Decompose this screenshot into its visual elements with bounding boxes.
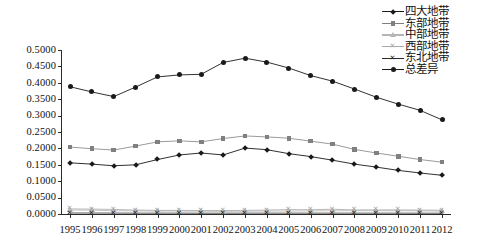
data-point: ✕ <box>395 210 401 217</box>
data-point <box>374 95 379 100</box>
data-point <box>199 72 204 77</box>
data-point <box>177 139 182 144</box>
data-point <box>396 102 401 107</box>
data-point: ✕ <box>242 210 248 217</box>
y-axis-tick-text: 0.0000 <box>27 208 56 219</box>
data-point <box>286 66 291 71</box>
legend-point-icon: ✕ <box>390 55 396 62</box>
legend-marker-icon <box>382 29 404 40</box>
y-axis-tick-text: 0.0500 <box>27 192 56 203</box>
data-point <box>352 147 357 152</box>
data-point <box>155 140 160 145</box>
legend-marker-icon <box>382 64 404 75</box>
legend-point-icon <box>391 67 396 72</box>
data-point: ✕ <box>373 210 379 217</box>
legend-label: 总差异 <box>405 64 438 76</box>
data-point: ✕ <box>417 210 423 217</box>
data-point: ✕ <box>110 210 116 217</box>
data-point <box>133 85 138 90</box>
legend-point-icon <box>390 9 396 15</box>
data-point <box>396 154 401 159</box>
data-point: ✕ <box>176 210 182 217</box>
legend-point-icon <box>391 21 396 26</box>
data-point <box>68 145 73 150</box>
data-point <box>133 144 138 149</box>
data-point: ✕ <box>132 210 138 217</box>
data-point <box>287 136 292 141</box>
data-point <box>199 140 204 145</box>
legend-marker-icon <box>382 18 404 29</box>
legend-item[interactable]: 总差异 <box>382 64 486 76</box>
y-axis-tick-text: 0.1500 <box>27 159 56 170</box>
data-point: ✕ <box>198 210 204 217</box>
y-axis-tick-mark <box>58 214 62 215</box>
y-axis-tick-text: 0.1000 <box>27 175 56 186</box>
y-axis-tick-text: 0.5000 <box>27 44 56 55</box>
legend-point-icon <box>390 32 396 37</box>
data-point <box>111 148 116 153</box>
data-point <box>418 108 423 113</box>
data-point: ✕ <box>88 210 94 217</box>
data-point: ✕ <box>220 210 226 217</box>
data-point: ✕ <box>307 210 313 217</box>
chart-figure: 0.50000.45000.40000.35000.30000.25000.20… <box>0 0 486 251</box>
data-point <box>440 117 445 122</box>
data-point: ✕ <box>351 210 357 217</box>
x-axis-line <box>61 214 451 215</box>
data-point <box>440 160 445 165</box>
data-point: ✕ <box>439 210 445 217</box>
x-axis-tick-label: 2012 <box>427 224 457 235</box>
series-line-3 <box>70 209 442 211</box>
data-point <box>221 136 226 141</box>
legend-marker-icon: ✕ <box>382 41 404 52</box>
data-point: ✕ <box>263 210 269 217</box>
y-axis-tick-text: 0.3500 <box>27 93 56 104</box>
data-point <box>221 60 226 65</box>
data-point <box>68 84 73 89</box>
legend: 四大地带东部地带中部地带✕西部地带✕东北地带总差异 <box>382 6 486 76</box>
y-axis-tick-text: 0.4000 <box>27 77 56 88</box>
data-point <box>418 157 423 162</box>
legend-marker-icon: ✕ <box>382 53 404 64</box>
data-point: ✕ <box>329 210 335 217</box>
y-axis-tick-text: 0.2000 <box>27 143 56 154</box>
data-point: ✕ <box>154 210 160 217</box>
y-axis-tick-text: 0.3000 <box>27 110 56 121</box>
y-axis-tick-text: 0.4500 <box>27 61 56 72</box>
data-point <box>243 134 248 139</box>
data-point <box>243 56 248 61</box>
y-axis-tick-text: 0.2500 <box>27 126 56 137</box>
data-point <box>330 142 335 147</box>
legend-marker-icon <box>382 6 404 17</box>
data-point <box>90 146 95 151</box>
data-point: ✕ <box>67 210 73 217</box>
data-point <box>352 87 357 92</box>
data-point: ✕ <box>285 210 291 217</box>
data-point <box>374 151 379 156</box>
legend-point-icon: ✕ <box>390 43 396 50</box>
series-line-0 <box>70 148 442 175</box>
data-point <box>330 79 335 84</box>
data-point <box>308 139 313 144</box>
data-point <box>265 135 270 140</box>
